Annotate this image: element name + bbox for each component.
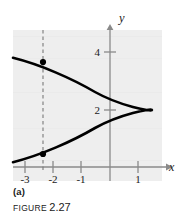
marked-point-upper [40, 59, 46, 65]
plot-background [13, 30, 162, 181]
figure-caption-word: FIGURE [13, 203, 47, 213]
plot-area: y x -3 -2 -1 1 2 4 [0, 0, 178, 186]
x-tick-label-neg2: -2 [48, 173, 57, 185]
figure-caption: FIGURE 2.27 [13, 201, 173, 215]
graph-svg: y x -3 -2 -1 1 2 4 [0, 0, 178, 186]
caption-block: (a) FIGURE 2.27 [13, 186, 173, 215]
x-tick-label-neg3: -3 [20, 173, 30, 185]
marked-point-lower [40, 151, 46, 157]
subfigure-label: (a) [13, 186, 173, 198]
x-tick-label-pos1: 1 [135, 173, 141, 185]
y-axis-label: y [117, 11, 125, 25]
x-axis-label: x [168, 160, 175, 174]
y-tick-label-2: 2 [95, 104, 101, 116]
figure-caption-number: 2.27 [49, 201, 70, 213]
x-tick-label-neg1: -1 [76, 173, 85, 185]
figure-container: y x -3 -2 -1 1 2 4 (a) FIGURE 2.27 [0, 0, 178, 219]
y-tick-label-4: 4 [95, 46, 101, 58]
